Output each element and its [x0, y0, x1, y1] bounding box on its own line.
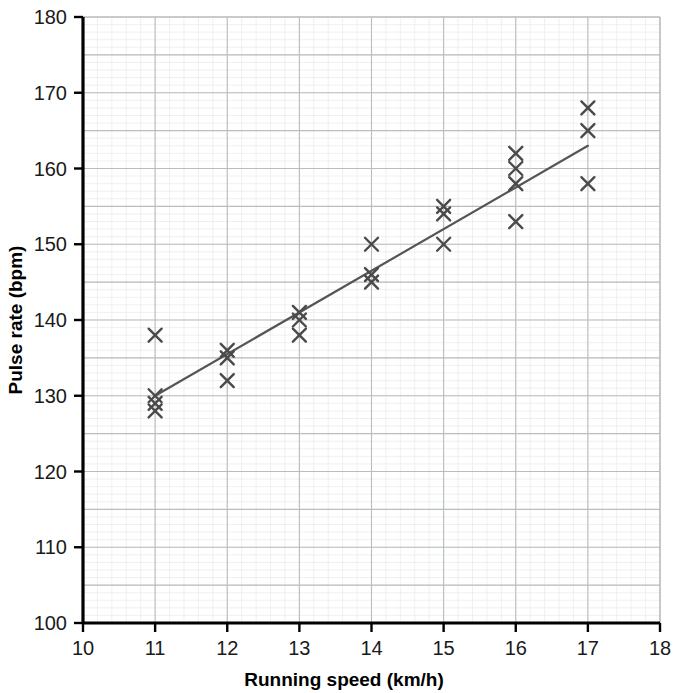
- x-tick-label: 11: [145, 637, 166, 659]
- y-axis-title: Pulse rate (bpm): [5, 246, 26, 395]
- x-tick-label: 15: [433, 637, 455, 659]
- x-tick-label: 12: [216, 637, 238, 659]
- y-tick-label: 130: [34, 385, 67, 407]
- x-axis-tick-labels: 101112131415161718: [72, 637, 671, 659]
- y-tick-label: 100: [34, 612, 67, 634]
- chart-canvas: 101112131415161718 100110120130140150160…: [0, 0, 688, 693]
- scatter-chart: 101112131415161718 100110120130140150160…: [0, 0, 688, 693]
- x-tick-label: 14: [360, 637, 382, 659]
- x-tick-label: 17: [577, 637, 599, 659]
- y-tick-label: 110: [35, 536, 67, 558]
- y-axis-tick-labels: 100110120130140150160170180: [34, 6, 67, 634]
- y-tick-label: 170: [34, 82, 67, 104]
- y-tick-label: 160: [34, 158, 67, 180]
- x-axis-title: Running speed (km/h): [244, 669, 444, 690]
- x-tick-label: 13: [288, 637, 310, 659]
- x-tick-label: 18: [649, 637, 671, 659]
- y-tick-label: 180: [34, 6, 67, 28]
- y-tick-label: 120: [34, 461, 67, 483]
- x-tick-label: 16: [505, 637, 527, 659]
- y-tick-label: 150: [34, 233, 67, 255]
- x-tick-label: 10: [72, 637, 94, 659]
- y-tick-label: 140: [34, 309, 67, 331]
